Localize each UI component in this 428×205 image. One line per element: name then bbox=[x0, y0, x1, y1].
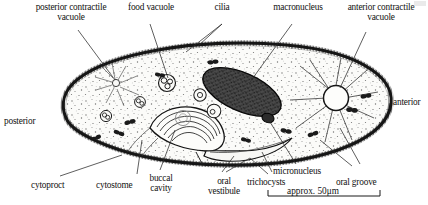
label-line: cytostome bbox=[96, 180, 133, 190]
label-line: micronucleus bbox=[273, 166, 321, 176]
label-line: vacuole bbox=[367, 12, 395, 22]
label-line: buccal bbox=[149, 173, 172, 183]
leader-cytoproct bbox=[60, 155, 122, 176]
label-cilia: cilia bbox=[198, 3, 246, 13]
scale-bar-caption: approx. 50μm bbox=[287, 186, 339, 196]
label-trichocysts: trichocysts bbox=[247, 178, 285, 188]
label-line: posterior bbox=[4, 116, 35, 126]
label-line: macronucleus bbox=[273, 2, 322, 12]
paramecium-diagram bbox=[0, 0, 428, 205]
label-buccal-cavity: buccal cavity bbox=[140, 174, 182, 193]
label-line: food vacuole bbox=[128, 2, 174, 12]
label-line: vacuole bbox=[57, 12, 85, 22]
label-line: cavity bbox=[150, 183, 172, 193]
label-line: posterior contractile bbox=[36, 2, 107, 12]
label-line: cytoproct bbox=[31, 180, 64, 190]
label-line: vestibule bbox=[208, 186, 240, 196]
label-line: cilia bbox=[214, 2, 229, 12]
label-line: oral groove bbox=[336, 177, 377, 187]
label-line: trichocysts bbox=[247, 177, 285, 187]
label-anterior: anterior bbox=[393, 98, 420, 108]
label-line: anterior bbox=[393, 97, 420, 107]
scale-bar-text: approx. 50μm bbox=[287, 186, 339, 196]
label-cytoproct: cytoproct bbox=[31, 181, 64, 191]
label-line: anterior contractile bbox=[348, 2, 415, 12]
label-macronucleus: macronucleus bbox=[258, 3, 338, 13]
label-food-vacuole: food vacuole bbox=[106, 3, 196, 13]
label-line: oral bbox=[217, 176, 231, 186]
label-oral-groove: oral groove bbox=[336, 178, 377, 188]
label-oral-vestibule: oral vestibule bbox=[199, 177, 249, 196]
label-posterior: posterior bbox=[4, 117, 35, 127]
scan-artifact bbox=[414, 1, 426, 6]
label-micronucleus: micronucleus bbox=[273, 167, 321, 177]
label-cytostome: cytostome bbox=[96, 181, 133, 191]
